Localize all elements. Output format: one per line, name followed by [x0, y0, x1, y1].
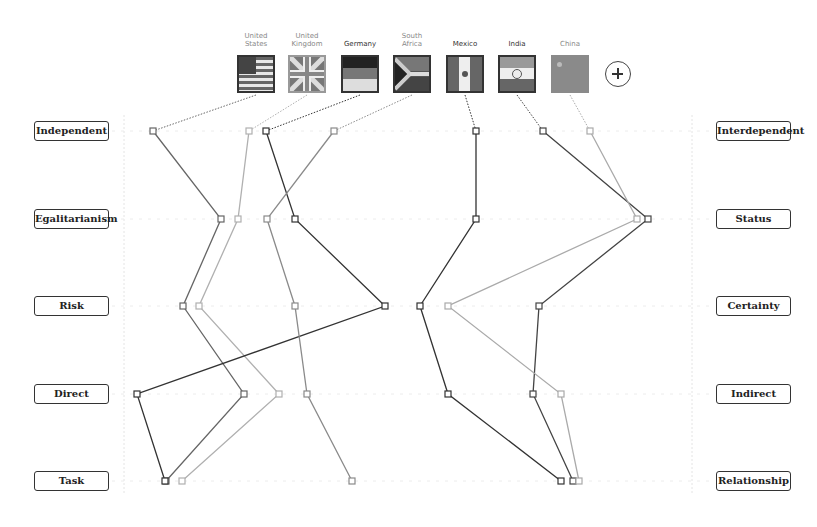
dimension-label-right: Status: [716, 209, 791, 229]
data-point-handle[interactable]: [417, 303, 423, 309]
dimension-label-right: Relationship: [716, 471, 791, 491]
data-point-handle[interactable]: [536, 303, 542, 309]
data-point-handle[interactable]: [445, 303, 451, 309]
data-point-handle[interactable]: [558, 391, 564, 397]
data-point-handle[interactable]: [263, 128, 269, 134]
data-point-handle[interactable]: [235, 216, 241, 222]
data-point-handle[interactable]: [445, 391, 451, 397]
data-point-handle[interactable]: [558, 478, 564, 484]
data-point-handle[interactable]: [264, 216, 270, 222]
data-point-handle[interactable]: [218, 216, 224, 222]
data-point-handle[interactable]: [134, 391, 140, 397]
data-point-handle[interactable]: [349, 478, 355, 484]
data-point-handle[interactable]: [241, 391, 247, 397]
data-point-handle[interactable]: [180, 303, 186, 309]
data-point-handle[interactable]: [276, 391, 282, 397]
dimension-label-left: Risk: [34, 296, 109, 316]
dimension-label-left: Direct: [34, 384, 109, 404]
data-point-handle[interactable]: [540, 128, 546, 134]
data-point-handle[interactable]: [246, 128, 252, 134]
data-point-handle[interactable]: [570, 478, 576, 484]
data-point-handle[interactable]: [292, 216, 298, 222]
dimension-label-left: Egalitarianism: [34, 209, 109, 229]
data-point-handle[interactable]: [473, 216, 479, 222]
data-point-handle[interactable]: [179, 478, 185, 484]
dimension-label-left: Independent: [34, 121, 109, 141]
data-point-handle[interactable]: [196, 303, 202, 309]
data-point-handle[interactable]: [576, 478, 582, 484]
dimension-label-right: Interdependent: [716, 121, 791, 141]
dimension-label-right: Indirect: [716, 384, 791, 404]
data-point-handle[interactable]: [473, 128, 479, 134]
cultural-profile-chart: [0, 0, 817, 527]
data-point-handle[interactable]: [150, 128, 156, 134]
dimension-label-right: Certainty: [716, 296, 791, 316]
data-point-handle[interactable]: [634, 216, 640, 222]
data-point-handle[interactable]: [162, 478, 168, 484]
data-point-handle[interactable]: [304, 391, 310, 397]
data-point-handle[interactable]: [587, 128, 593, 134]
data-point-handle[interactable]: [645, 216, 651, 222]
data-point-handle[interactable]: [331, 128, 337, 134]
dimension-label-left: Task: [34, 471, 109, 491]
data-point-handle[interactable]: [292, 303, 298, 309]
data-point-handle[interactable]: [530, 391, 536, 397]
data-point-handle[interactable]: [382, 303, 388, 309]
